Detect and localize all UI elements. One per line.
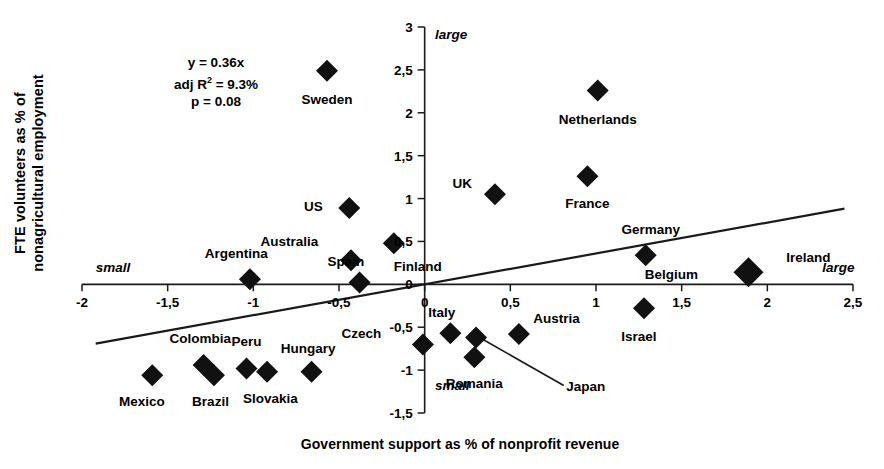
data-marker-us[interactable] <box>338 197 360 219</box>
data-marker-hungary[interactable] <box>301 361 323 383</box>
x-axis-tick-label: 2,5 <box>844 295 863 310</box>
point-label-slovakia: Slovakia <box>243 390 298 405</box>
data-marker-germany[interactable] <box>635 244 657 266</box>
point-label-israel: Israel <box>621 328 656 343</box>
point-label-germany: Germany <box>622 221 681 236</box>
y-axis-tick-label: 2,5 <box>394 62 413 77</box>
data-marker-czech[interactable] <box>412 333 434 355</box>
point-label-italy: Italy <box>428 304 455 319</box>
trendline <box>96 209 845 344</box>
data-marker-netherlands[interactable] <box>587 79 609 101</box>
point-label-us: US <box>304 199 323 214</box>
x-axis-tick-label: 2 <box>764 295 772 310</box>
point-label-netherlands: Netherlands <box>559 111 637 126</box>
data-marker-belgium[interactable] <box>733 257 763 287</box>
data-marker-slovakia[interactable] <box>256 361 278 383</box>
data-marker-peru[interactable] <box>235 357 257 379</box>
point-label-ireland: Ireland <box>786 249 830 264</box>
point-label-romania: Romania <box>446 375 503 390</box>
point-label-france: France <box>565 195 609 210</box>
point-label-colombia: Colombia <box>169 330 231 345</box>
x-axis-tick-label: 1,5 <box>672 295 691 310</box>
point-label-finland: Finland <box>394 259 442 274</box>
x-axis-tick-label: -1,5 <box>156 295 179 310</box>
axis-qualifier-small-left: small <box>96 260 131 275</box>
data-marker-italy[interactable] <box>439 322 461 344</box>
point-label-mexico: Mexico <box>119 393 165 408</box>
y-axis-tick-label: 1 <box>405 191 413 206</box>
x-axis-tick-label: 1 <box>592 295 600 310</box>
y-axis-tick-label: -1 <box>401 363 413 378</box>
data-marker-france[interactable] <box>576 165 598 187</box>
data-marker-austria[interactable] <box>508 323 530 345</box>
point-label-belgium: Belgium <box>645 267 698 282</box>
data-marker-japan[interactable] <box>465 327 487 349</box>
data-marker-uk[interactable] <box>484 183 506 205</box>
y-axis-tick-label: 1,5 <box>394 148 413 163</box>
point-label-argentina: Argentina <box>205 245 268 260</box>
scatter-chart-figure: FTE volunteers as % of nonagricultural e… <box>0 0 884 469</box>
point-label-australia: Australia <box>260 234 318 249</box>
point-label-spain: Spain <box>327 254 364 269</box>
x-axis-tick-label: -2 <box>76 295 88 310</box>
x-axis-tick-label: 0,5 <box>501 295 520 310</box>
point-label-peru: Peru <box>231 333 261 348</box>
data-marker-mexico[interactable] <box>141 364 163 386</box>
data-marker-romania[interactable] <box>463 346 485 368</box>
y-axis-tick-label: -1,5 <box>389 406 412 421</box>
y-axis-tick-label: 3 <box>405 20 413 35</box>
y-axis-tick-label: -0,5 <box>389 320 412 335</box>
point-label-uk: UK <box>453 176 473 191</box>
point-label-japan: Japan <box>566 378 605 393</box>
x-axis-tick-label: -0,5 <box>327 295 350 310</box>
y-axis-tick-label: 0 <box>405 277 413 292</box>
x-axis-tick-label: 0 <box>421 295 429 310</box>
y-axis-tick-label: 0,5 <box>394 234 413 249</box>
y-axis-tick-label: 2 <box>405 105 413 120</box>
data-marker-sweden[interactable] <box>316 60 338 82</box>
point-label-brazil: Brazil <box>192 393 229 408</box>
x-axis-tick-label: -1 <box>247 295 259 310</box>
data-marker-spain[interactable] <box>349 272 371 294</box>
axis-qualifier-large-top: large <box>435 27 467 42</box>
point-label-hungary: Hungary <box>281 340 336 355</box>
point-label-austria: Austria <box>533 310 580 325</box>
data-marker-argentina[interactable] <box>239 268 261 290</box>
point-label-sweden: Sweden <box>301 92 352 107</box>
data-marker-israel[interactable] <box>633 297 655 319</box>
point-label-czech: Czech <box>341 326 381 341</box>
